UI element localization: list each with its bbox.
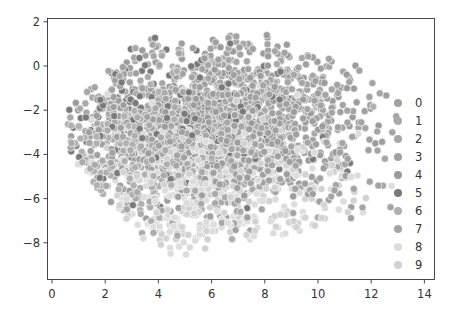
legend-item: 5 — [394, 186, 422, 200]
legend-item: 3 — [394, 150, 422, 164]
legend-label: 8 — [415, 240, 422, 254]
x-axis: 02468101214 — [48, 280, 431, 302]
x-tick-label: 14 — [417, 287, 432, 301]
y-tick-label: 2 — [33, 15, 40, 29]
y-axis: 20−2−4−6−8 — [23, 15, 47, 250]
x-tick-label: 0 — [48, 287, 55, 301]
legend-marker — [394, 99, 402, 107]
x-tick-label: 12 — [364, 287, 379, 301]
y-tick-label: 0 — [33, 59, 40, 73]
legend-label: 0 — [415, 96, 422, 110]
y-tick-label: −2 — [23, 103, 40, 117]
y-tick-label: −6 — [23, 192, 40, 206]
legend-label: 7 — [415, 222, 422, 236]
legend-marker — [394, 171, 402, 179]
legend-label: 4 — [415, 168, 422, 182]
legend-item: 8 — [394, 240, 422, 254]
legend-label: 2 — [415, 132, 422, 146]
legend-item: 4 — [394, 168, 422, 182]
scatter-chart: 02468101214 20−2−4−6−8 0123456789 — [0, 0, 456, 317]
legend-item: 6 — [394, 204, 422, 218]
legend-item: 7 — [394, 222, 422, 236]
legend-item: 9 — [394, 258, 422, 272]
legend-marker — [394, 243, 402, 251]
legend-marker — [394, 225, 402, 233]
legend-marker — [394, 117, 402, 125]
legend-item: 2 — [394, 132, 422, 146]
legend-label: 5 — [415, 186, 422, 200]
x-tick-label: 8 — [261, 287, 268, 301]
legend-label: 6 — [415, 204, 422, 218]
scatter-points — [65, 31, 401, 258]
x-tick-label: 6 — [208, 287, 215, 301]
y-tick-label: −8 — [23, 236, 40, 250]
x-tick-label: 10 — [311, 287, 326, 301]
legend-item: 0 — [394, 96, 422, 110]
legend-marker — [394, 261, 402, 269]
legend-label: 1 — [415, 114, 422, 128]
y-tick-label: −4 — [23, 147, 40, 161]
legend-marker — [394, 153, 402, 161]
legend-label: 9 — [415, 258, 422, 272]
x-tick-label: 2 — [102, 287, 109, 301]
x-tick-label: 4 — [155, 287, 162, 301]
legend-marker — [394, 189, 402, 197]
legend-marker — [394, 207, 402, 215]
legend: 0123456789 — [394, 96, 422, 272]
legend-label: 3 — [415, 150, 422, 164]
legend-marker — [394, 135, 402, 143]
